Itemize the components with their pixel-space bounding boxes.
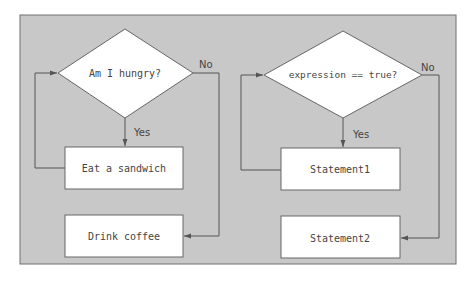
after-loop-text: Statement2	[310, 233, 370, 244]
loop-body-text: Eat a sandwich	[82, 163, 166, 174]
after-loop-text: Drink coffee	[88, 231, 160, 242]
yes-label: Yes	[352, 129, 369, 140]
while-loop-flowchart-figure: Am I hungry? Yes No Eat a sandwich Drink…	[0, 0, 473, 289]
loop-body-text: Statement1	[310, 164, 370, 175]
decision-text: Am I hungry?	[89, 68, 161, 79]
decision-text: expression == true?	[289, 69, 398, 80]
yes-label: Yes	[133, 127, 150, 138]
no-label: No	[199, 59, 213, 70]
no-label: No	[421, 62, 435, 73]
